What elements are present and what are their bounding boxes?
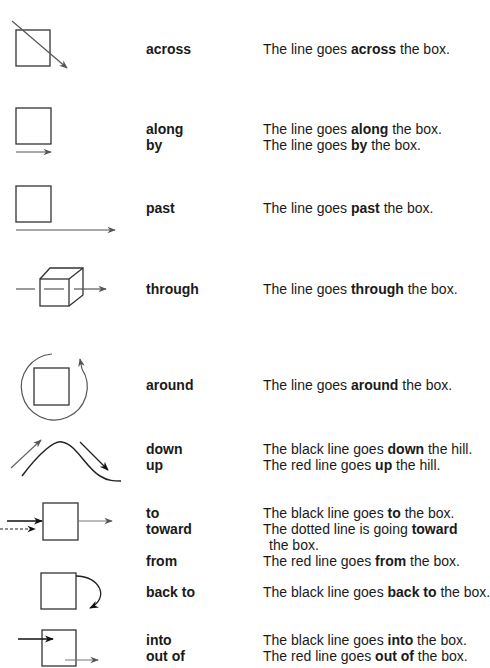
along-diagram xyxy=(16,108,51,152)
term: down xyxy=(146,441,183,457)
term: back to xyxy=(146,584,195,600)
sentence-column: The black line goes to the box. The dott… xyxy=(263,505,460,569)
term-column: past xyxy=(146,200,175,216)
term-column: back to xyxy=(146,584,195,600)
term-column: down up xyxy=(146,441,183,473)
term: along xyxy=(146,121,183,137)
term-column: along by xyxy=(146,121,183,153)
sentence-continuation: the box. xyxy=(263,537,460,553)
term: into xyxy=(146,632,185,648)
sentence-column: The black line goes back to the box. xyxy=(263,584,490,600)
term: out of xyxy=(146,648,185,664)
term: toward xyxy=(146,521,192,537)
sentence-column: The line goes past the box. xyxy=(263,200,433,216)
sentence: The red line goes out of the box. xyxy=(263,648,468,664)
across-diagram xyxy=(12,21,67,68)
sentence: The black line goes back to the box. xyxy=(263,584,490,600)
sentence: The black line goes down the hill. xyxy=(263,441,472,457)
back-to-diagram xyxy=(41,573,101,609)
sentence: The line goes around the box. xyxy=(263,377,452,393)
term-column: across xyxy=(146,41,191,57)
term: to xyxy=(146,505,192,521)
sentence: The line goes past the box. xyxy=(263,200,433,216)
sentence: The line goes across the box. xyxy=(263,41,450,57)
sentence: The black line goes into the box. xyxy=(263,632,468,648)
around-diagram xyxy=(21,354,87,420)
sentence: The red line goes from the box. xyxy=(263,553,460,569)
sentence-column: The black line goes down the hill. The r… xyxy=(263,441,472,473)
past-diagram xyxy=(16,186,115,230)
term: up xyxy=(146,457,183,473)
term: by xyxy=(146,137,183,153)
sentence: The black line goes to the box. xyxy=(263,505,460,521)
sentence-column: The black line goes into the box. The re… xyxy=(263,632,468,664)
term-column: into out of xyxy=(146,632,185,664)
into-out-of-diagram xyxy=(18,630,98,666)
sentence-column: The line goes along the box. The line go… xyxy=(263,121,442,153)
sentence-column: The line goes across the box. xyxy=(263,41,450,57)
term-spacer xyxy=(146,537,192,553)
down-up-diagram xyxy=(11,440,121,481)
sentence: The line goes along the box. xyxy=(263,121,442,137)
term: from xyxy=(146,553,192,569)
sentence: The red line goes up the hill. xyxy=(263,457,472,473)
sentence: The line goes by the box. xyxy=(263,137,442,153)
through-diagram xyxy=(16,268,106,306)
term: past xyxy=(146,200,175,216)
term: around xyxy=(146,377,193,393)
to-toward-from-diagram xyxy=(0,503,112,540)
sentence-column: The line goes through the box. xyxy=(263,281,458,297)
term: through xyxy=(146,281,199,297)
sentence-column: The line goes around the box. xyxy=(263,377,452,393)
sentence: The dotted line is going toward xyxy=(263,521,460,537)
term: across xyxy=(146,41,191,57)
term-column: to toward from xyxy=(146,505,192,569)
sentence: The line goes through the box. xyxy=(263,281,458,297)
term-column: through xyxy=(146,281,199,297)
term-column: around xyxy=(146,377,193,393)
